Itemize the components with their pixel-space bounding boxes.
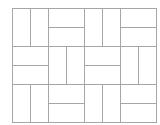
basket-weave-tiling-diagram — [0, 0, 160, 125]
